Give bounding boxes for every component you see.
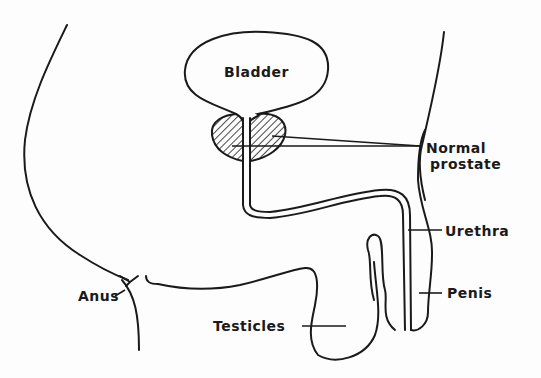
anatomy-diagram: Bladder Normal prostate Urethra Penis An…: [0, 0, 541, 378]
anus-label: Anus: [78, 288, 119, 304]
prostate-left-lobe: [212, 114, 243, 161]
prostate-leader-1: [272, 136, 420, 146]
urethra-label: Urethra: [445, 223, 509, 239]
buttocks-outline: [24, 25, 128, 280]
prostate-label-line2: prostate: [430, 156, 501, 172]
bladder-label: Bladder: [224, 64, 289, 80]
prostate-label-line1: Normal: [426, 140, 486, 156]
abdomen-outline: [420, 32, 444, 200]
scrotum-outline: [158, 262, 378, 359]
testicles-label: Testicles: [213, 318, 285, 334]
penis-outline: [367, 235, 395, 330]
penis-label: Penis: [447, 285, 492, 301]
